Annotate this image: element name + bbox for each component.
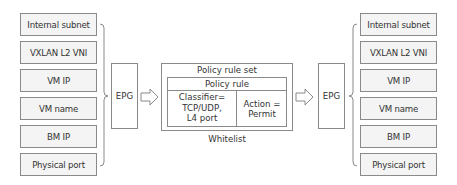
arrow-right-icon — [296, 89, 313, 105]
policy-rule-set-box: Policy rule set Policy rule Classifier= … — [161, 63, 293, 131]
action-line: Permit — [244, 109, 281, 120]
item-label: BM IP — [47, 132, 70, 142]
left-item-vxlan-l2-vni: VXLAN L2 VNI — [20, 41, 97, 64]
classifier-cell: Classifier= TCP/UDP, L4 port — [168, 91, 237, 127]
item-label: Physical port — [372, 160, 425, 170]
item-label: VXLAN L2 VNI — [370, 48, 427, 58]
policy-rule-set-title: Policy rule set — [162, 65, 292, 75]
arrow-right-icon — [141, 89, 158, 105]
right-item-physical-port: Physical port — [360, 153, 437, 176]
right-brace-icon — [349, 24, 357, 166]
action-line: Action = — [244, 99, 281, 110]
item-label: Internal subnet — [27, 20, 89, 30]
left-epg-box: EPG — [111, 63, 138, 129]
left-item-physical-port: Physical port — [20, 153, 97, 176]
item-label: VXLAN L2 VNI — [30, 48, 87, 58]
policy-rule-box: Policy rule Classifier= TCP/UDP, L4 port… — [167, 77, 287, 127]
right-item-vxlan-l2-vni: VXLAN L2 VNI — [360, 41, 437, 64]
left-item-vm-ip: VM IP — [20, 69, 97, 92]
classifier-line: Classifier= — [168, 92, 236, 103]
left-item-bm-ip: BM IP — [20, 125, 97, 148]
action-cell: Action = Permit — [237, 91, 287, 127]
right-item-bm-ip: BM IP — [360, 125, 437, 148]
right-epg-box: EPG — [318, 63, 345, 129]
item-label: Internal subnet — [367, 20, 429, 30]
classifier-line: TCP/UDP, — [168, 103, 236, 114]
policy-rule-title: Policy rule — [168, 78, 286, 91]
item-label: VM name — [379, 104, 418, 114]
right-item-vm-ip: VM IP — [360, 69, 437, 92]
right-item-vm-name: VM name — [360, 97, 437, 120]
left-brace-icon — [100, 24, 108, 166]
item-label: VM IP — [387, 76, 410, 86]
item-label: VM name — [39, 104, 78, 114]
item-label: BM IP — [387, 132, 410, 142]
right-item-internal-subnet: Internal subnet — [360, 13, 437, 36]
item-label: VM IP — [47, 76, 70, 86]
classifier-line: L4 port — [168, 113, 236, 124]
epg-label: EPG — [323, 91, 340, 101]
epg-label: EPG — [116, 91, 133, 101]
whitelist-caption: Whitelist — [161, 134, 293, 144]
item-label: Physical port — [32, 160, 85, 170]
left-item-internal-subnet: Internal subnet — [20, 13, 97, 36]
left-item-vm-name: VM name — [20, 97, 97, 120]
